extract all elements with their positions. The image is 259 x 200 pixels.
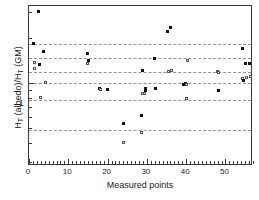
data-point (42, 50, 45, 53)
x-tick (249, 161, 250, 164)
x-tick (80, 161, 81, 164)
x-tick (210, 161, 211, 164)
x-tick (60, 161, 61, 164)
x-tick (139, 161, 140, 164)
y-tick (29, 107, 32, 108)
y-tick (29, 12, 32, 13)
data-point (32, 42, 35, 45)
data-point (249, 75, 252, 78)
x-tick (218, 161, 219, 164)
x-tick (37, 161, 38, 164)
data-point (185, 97, 188, 100)
x-tick (206, 161, 207, 164)
x-tick (222, 161, 223, 164)
x-tick (202, 161, 203, 164)
x-tick (167, 161, 168, 164)
data-point (242, 79, 245, 82)
y-axis-title-h1: H (13, 122, 23, 129)
x-tick (178, 161, 179, 164)
data-point (39, 96, 42, 99)
x-tick (127, 161, 128, 164)
scatter-chart-figure: 01020304050 1 Measured points HT (albedo… (0, 0, 259, 200)
y-tick (29, 90, 32, 91)
x-tick (49, 161, 50, 164)
data-point (186, 59, 189, 62)
data-point (185, 83, 188, 86)
x-tick (68, 159, 69, 164)
x-tick (151, 161, 152, 164)
x-tick (33, 161, 34, 164)
gridline-1 (29, 58, 251, 59)
data-point (166, 30, 169, 33)
data-point (153, 57, 156, 60)
x-tick (214, 161, 215, 164)
x-tick (170, 161, 171, 164)
y-axis-title-end: (GM) (13, 46, 23, 69)
x-tick (253, 161, 254, 164)
y-axis-title: HT (albedo)/HT (GM) (13, 13, 24, 163)
x-tick (155, 161, 156, 164)
y-tick (29, 143, 32, 144)
y-tick (29, 162, 32, 163)
gridline-4 (29, 100, 251, 101)
gridline-3 (29, 83, 251, 84)
x-tick (92, 161, 93, 164)
x-tick (194, 161, 195, 164)
x-tick (163, 161, 164, 164)
data-point (38, 63, 41, 66)
data-point (44, 81, 47, 84)
x-tick (198, 161, 199, 164)
x-tick (190, 161, 191, 164)
x-tick (64, 161, 65, 164)
y-tick (29, 128, 32, 129)
data-point (86, 52, 89, 55)
x-tick (123, 161, 124, 164)
x-tick (159, 161, 160, 164)
x-tick (104, 161, 105, 164)
x-tick (41, 161, 42, 164)
x-tick (112, 161, 113, 164)
data-point (217, 89, 220, 92)
data-point (99, 88, 102, 91)
data-point (86, 62, 89, 65)
x-tick (57, 161, 58, 164)
data-point (141, 92, 144, 95)
data-point (241, 47, 244, 50)
x-tick (72, 161, 73, 164)
x-tick (186, 159, 187, 164)
x-tick (45, 161, 46, 164)
gridline-0 (29, 44, 251, 45)
plot-area (28, 5, 252, 165)
data-point (245, 76, 248, 79)
x-tick (241, 161, 242, 164)
x-axis-tick-label-30: 30 (141, 167, 150, 176)
y-axis-title-sub1: T (17, 118, 24, 122)
x-tick (225, 159, 226, 164)
x-axis-tick-label-40: 40 (181, 167, 190, 176)
x-tick (233, 161, 234, 164)
x-tick (100, 161, 101, 164)
data-point (33, 61, 36, 64)
x-tick (174, 161, 175, 164)
x-axis-tick-label-10: 10 (63, 167, 72, 176)
x-tick (182, 161, 183, 164)
x-tick (84, 161, 85, 164)
data-point (37, 10, 40, 13)
data-point (140, 114, 143, 117)
data-point (141, 69, 144, 72)
x-axis-title: Measured points (28, 180, 252, 190)
y-axis-title-mid: (albedo)/H (13, 73, 23, 118)
x-tick (147, 159, 148, 164)
data-point (170, 69, 173, 72)
x-tick (119, 161, 120, 164)
y-tick (29, 38, 32, 39)
data-point (169, 26, 172, 29)
data-point (122, 141, 125, 144)
x-tick (88, 161, 89, 164)
x-tick (143, 161, 144, 164)
x-tick (237, 161, 238, 164)
x-tick (53, 161, 54, 164)
data-point (140, 131, 143, 134)
y-axis-title-sub2: T (17, 69, 24, 73)
x-tick (245, 161, 246, 164)
